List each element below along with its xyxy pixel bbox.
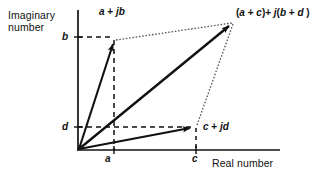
tick-label-d: d [62, 121, 68, 133]
vector-c-plus-jd [79, 128, 190, 149]
imaginary-axis-title: Imaginary number [8, 9, 70, 33]
vector-label-sum-close2: ) [304, 7, 310, 18]
vector-label-a-plus-jb-op: + [105, 6, 116, 17]
real-axis-title: Real number [212, 157, 273, 169]
vector-a-plus-jb [79, 44, 113, 149]
vector-label-sum-op2: + [286, 7, 297, 18]
imaginary-axis-title-line2: number [8, 21, 44, 33]
vector-label-sum-op1: + [245, 7, 256, 18]
imaginary-axis-title-line1: Imaginary [8, 9, 55, 21]
dotted-parallelogram-right [197, 24, 233, 125]
tick-label-a: a [105, 153, 111, 165]
vector-label-sum-close1: )+ [262, 7, 274, 18]
vector-label-c-plus-jd: c + jd [203, 121, 229, 133]
vector-label-c-plus-jd-im: d [223, 121, 229, 132]
vector-label-c-plus-jd-op: + [209, 121, 220, 132]
tick-label-c: c [192, 153, 198, 165]
vector-label-sum: (a + c)+ j(b + d ) [236, 7, 310, 19]
complex-number-addition-figure: Imaginary number Real number b d a c a +… [0, 0, 323, 178]
tick-label-b: b [62, 31, 68, 43]
vector-label-a-plus-jb: a + jb [99, 6, 125, 18]
vector-label-a-plus-jb-im: b [119, 6, 125, 17]
